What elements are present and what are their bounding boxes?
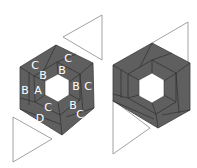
piece-label: C: [76, 108, 84, 121]
piece-label: C: [84, 80, 92, 93]
piece-label: A: [34, 84, 42, 97]
piece-label: B: [39, 69, 47, 82]
piece-label: B: [72, 80, 80, 93]
quilt-diagram: C C B B B C B A C B D C: [0, 0, 197, 168]
piece-label: C: [44, 101, 52, 114]
piece-label: B: [21, 84, 29, 97]
diagram-canvas: C C B B B C B A C B D C: [0, 0, 197, 168]
piece-label: B: [58, 64, 66, 77]
piece-label: C: [31, 59, 39, 72]
piece-label: D: [36, 112, 44, 125]
